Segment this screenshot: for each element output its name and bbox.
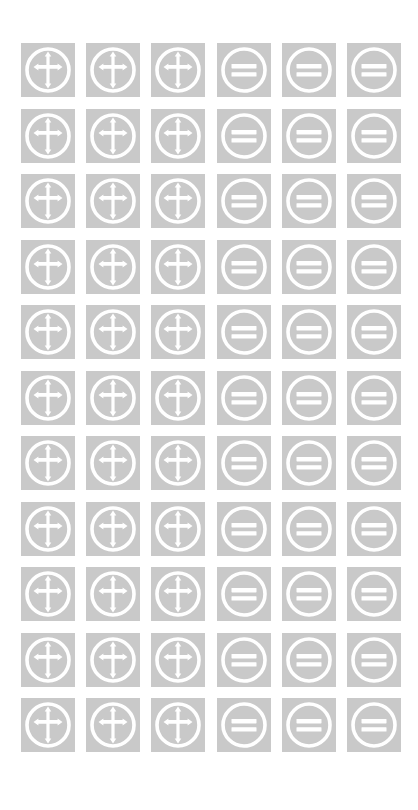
circled-cross-icon[interactable] [21,502,75,556]
circled-cross-icon[interactable] [151,109,205,163]
circled-cross-icon[interactable] [86,567,140,621]
circled-equals-icon[interactable] [217,567,271,621]
circled-cross-icon[interactable] [151,43,205,97]
circled-equals-icon[interactable] [282,436,336,490]
circled-equals-icon[interactable] [282,633,336,687]
circled-cross-icon[interactable] [86,633,140,687]
circled-cross-icon[interactable] [86,436,140,490]
circled-cross-icon[interactable] [21,43,75,97]
circled-equals-icon[interactable] [217,698,271,752]
circled-equals-icon[interactable] [217,43,271,97]
circled-equals-icon[interactable] [347,698,401,752]
circled-equals-icon[interactable] [282,502,336,556]
circled-cross-icon[interactable] [21,371,75,425]
circled-cross-icon[interactable] [151,371,205,425]
circled-equals-icon[interactable] [282,305,336,359]
circled-cross-icon[interactable] [151,240,205,294]
circled-cross-icon[interactable] [21,633,75,687]
circled-cross-icon[interactable] [21,174,75,228]
circled-cross-icon[interactable] [151,633,205,687]
circled-equals-icon[interactable] [217,502,271,556]
circled-cross-icon[interactable] [86,305,140,359]
circled-equals-icon[interactable] [347,305,401,359]
circled-equals-icon[interactable] [347,502,401,556]
circled-cross-icon[interactable] [21,698,75,752]
circled-cross-icon[interactable] [151,502,205,556]
circled-equals-icon[interactable] [347,567,401,621]
circled-equals-icon[interactable] [217,109,271,163]
circled-cross-icon[interactable] [21,305,75,359]
circled-equals-icon[interactable] [282,698,336,752]
circled-cross-icon[interactable] [86,698,140,752]
circled-cross-icon[interactable] [86,43,140,97]
circled-cross-icon[interactable] [21,436,75,490]
circled-equals-icon[interactable] [282,567,336,621]
circled-equals-icon[interactable] [282,43,336,97]
circled-equals-icon[interactable] [217,436,271,490]
circled-cross-icon[interactable] [151,567,205,621]
circled-cross-icon[interactable] [86,109,140,163]
icon-grid [21,43,401,763]
circled-equals-icon[interactable] [217,633,271,687]
circled-equals-icon[interactable] [282,240,336,294]
circled-cross-icon[interactable] [151,436,205,490]
circled-cross-icon[interactable] [86,502,140,556]
circled-equals-icon[interactable] [347,43,401,97]
circled-equals-icon[interactable] [217,371,271,425]
circled-equals-icon[interactable] [347,174,401,228]
circled-cross-icon[interactable] [86,240,140,294]
circled-equals-icon[interactable] [217,240,271,294]
circled-cross-icon[interactable] [151,174,205,228]
circled-equals-icon[interactable] [347,371,401,425]
circled-equals-icon[interactable] [347,633,401,687]
circled-cross-icon[interactable] [21,109,75,163]
circled-equals-icon[interactable] [347,109,401,163]
circled-cross-icon[interactable] [86,371,140,425]
circled-cross-icon[interactable] [21,567,75,621]
icon-sheet-canvas [0,0,418,810]
circled-equals-icon[interactable] [282,109,336,163]
circled-cross-icon[interactable] [151,698,205,752]
circled-equals-icon[interactable] [217,174,271,228]
circled-cross-icon[interactable] [21,240,75,294]
circled-equals-icon[interactable] [282,371,336,425]
circled-equals-icon[interactable] [217,305,271,359]
circled-equals-icon[interactable] [347,436,401,490]
circled-equals-icon[interactable] [282,174,336,228]
circled-cross-icon[interactable] [151,305,205,359]
circled-cross-icon[interactable] [86,174,140,228]
circled-equals-icon[interactable] [347,240,401,294]
